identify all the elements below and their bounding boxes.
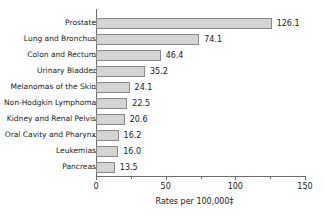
bar-row: 46.4 (96, 48, 305, 65)
y-axis-tick (92, 136, 96, 137)
bar-row: 35.2 (96, 64, 305, 81)
bar-value-label: 74.1 (204, 33, 222, 46)
category-label: Colon and Rectum (4, 50, 96, 60)
bar-value-label: 16.0 (123, 145, 141, 158)
bar[interactable] (96, 18, 272, 29)
x-axis-tick-label: 150 (297, 181, 312, 192)
y-axis-tick (92, 72, 96, 73)
category-label: Leukemias (4, 146, 96, 156)
y-axis-tick (92, 168, 96, 169)
category-label: Oral Cavity and Pharynx (4, 130, 96, 140)
x-axis-minor-tick (201, 176, 202, 179)
bar-value-label: 20.6 (130, 113, 148, 126)
bar[interactable] (96, 50, 161, 61)
bar-value-label: 46.4 (166, 49, 184, 62)
bar[interactable] (96, 146, 118, 157)
bar-row: 13.5 (96, 160, 305, 177)
bar-row: 22.5 (96, 96, 305, 113)
y-axis-tick (92, 152, 96, 153)
y-axis-tick (92, 88, 96, 89)
bar-chart: 126.174.146.435.224.122.520.616.216.013.… (0, 0, 325, 218)
bar-row: 24.1 (96, 80, 305, 97)
bar-row: 126.1 (96, 16, 305, 33)
bar[interactable] (96, 114, 125, 125)
category-label: Pancreas (4, 162, 96, 172)
category-label: Melanomas of the Skin (4, 82, 96, 92)
bar[interactable] (96, 66, 145, 77)
bar-row: 74.1 (96, 32, 305, 49)
bar-value-label: 22.5 (132, 97, 150, 110)
y-axis-tick (92, 24, 96, 25)
x-axis-tick-label: 100 (228, 181, 243, 192)
category-label: Non-Hodgkin Lymphoma (4, 98, 96, 108)
bar-value-label: 16.2 (124, 129, 142, 142)
category-label: Kidney and Renal Pelvis (4, 114, 96, 124)
bar-value-label: 13.5 (120, 161, 138, 174)
bar-value-label: 35.2 (150, 65, 168, 78)
y-axis-tick (92, 40, 96, 41)
y-axis-tick (92, 120, 96, 121)
x-axis-minor-tick (131, 176, 132, 179)
x-axis-major-tick (166, 176, 167, 180)
x-axis-major-tick (305, 176, 306, 180)
x-axis-tick-label: 50 (161, 181, 171, 192)
x-axis-major-tick (235, 176, 236, 180)
x-axis-tick-label: 0 (93, 181, 98, 192)
x-axis-title-text: Rates per 100,000‡ (156, 196, 234, 207)
y-axis-tick (92, 104, 96, 105)
bar[interactable] (96, 130, 119, 141)
bar-row: 20.6 (96, 112, 305, 129)
bar[interactable] (96, 162, 115, 173)
x-axis-minor-tick (270, 176, 271, 179)
category-label: Lung and Bronchus (4, 34, 96, 44)
bar-value-label: 126.1 (277, 17, 300, 30)
bar-row: 16.0 (96, 144, 305, 161)
bar[interactable] (96, 98, 127, 109)
bar[interactable] (96, 82, 130, 93)
category-label: Urinary Bladder (4, 66, 96, 76)
x-axis-title: Rates per 100,000‡ (0, 196, 325, 207)
bar-row: 16.2 (96, 128, 305, 145)
bar-value-label: 24.1 (135, 81, 153, 94)
category-label: Prostate (4, 18, 96, 28)
bar[interactable] (96, 34, 199, 45)
y-axis-tick (92, 56, 96, 57)
x-axis-major-tick (96, 176, 97, 180)
